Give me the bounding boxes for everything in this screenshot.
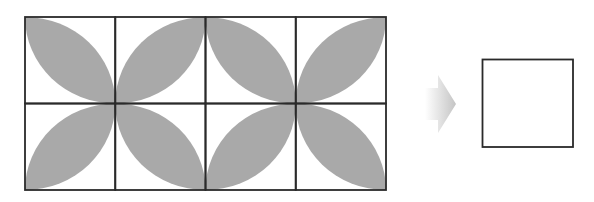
leaf-shape bbox=[25, 17, 115, 104]
leaf-shape bbox=[206, 17, 296, 104]
leaf-shape bbox=[206, 104, 296, 191]
answer-box bbox=[483, 60, 574, 148]
figure-canvas bbox=[0, 0, 594, 202]
arrow-right-icon bbox=[425, 75, 456, 133]
leaf-shape bbox=[115, 104, 205, 191]
leaf-shape bbox=[115, 17, 205, 104]
leaf-shape bbox=[296, 17, 386, 104]
leaf-shape bbox=[25, 104, 115, 191]
leaf-shape bbox=[296, 104, 386, 191]
